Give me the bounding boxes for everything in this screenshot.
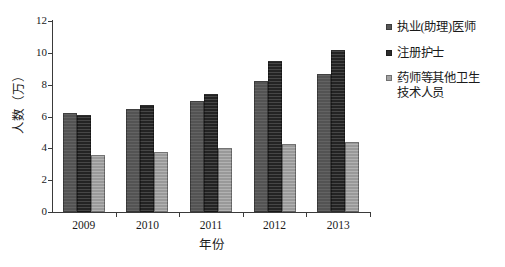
bar — [345, 142, 359, 212]
x-axis-title: 年份 — [52, 238, 371, 252]
x-tick-label: 2010 — [117, 219, 177, 232]
y-tick-label: 12 — [0, 15, 55, 26]
bar — [190, 101, 204, 212]
x-tick-label: 2012 — [245, 219, 305, 232]
bar — [63, 113, 77, 212]
y-tick-label: 8 — [0, 79, 55, 90]
legend-swatch-icon — [386, 50, 392, 56]
bar — [77, 115, 91, 212]
legend-label: 药师等其他卫生 技术人员 — [397, 71, 480, 100]
y-tick-label: 10 — [0, 47, 55, 58]
bar — [331, 50, 345, 212]
x-tick-mark — [243, 213, 244, 217]
bar — [317, 74, 331, 212]
y-tick-label: 2 — [0, 174, 55, 185]
bar — [282, 144, 296, 212]
bar-chart-figure: 024681012 20092010201120122013 人数（万） 年份 … — [0, 0, 505, 267]
legend-label: 执业(助理)医师 — [397, 20, 476, 35]
y-axis-title: 人数（万） — [13, 47, 26, 157]
y-tick-label: 0 — [0, 206, 55, 217]
legend-item[interactable]: 药师等其他卫生 技术人员 — [386, 71, 505, 100]
y-tick-label: 4 — [0, 142, 55, 153]
bar — [254, 81, 268, 212]
chart-legend: 执业(助理)医师注册护士药师等其他卫生 技术人员 — [386, 20, 505, 111]
x-tick-mark — [306, 213, 307, 217]
x-axis-line — [52, 212, 371, 213]
x-tick-mark — [179, 213, 180, 217]
y-tick-label: 6 — [0, 111, 55, 122]
legend-swatch-icon — [386, 24, 392, 30]
bar — [204, 94, 218, 212]
legend-item[interactable]: 注册护士 — [386, 46, 505, 61]
x-tick-mark — [370, 213, 371, 217]
bar — [218, 148, 232, 212]
bar — [126, 109, 140, 212]
x-tick-label: 2013 — [308, 219, 368, 232]
x-tick-mark — [116, 213, 117, 217]
legend-swatch-icon — [386, 75, 392, 81]
legend-label: 注册护士 — [397, 46, 444, 61]
x-tick-label: 2011 — [181, 219, 241, 232]
x-tick-label: 2009 — [54, 219, 114, 232]
bar — [268, 61, 282, 212]
bar — [154, 152, 168, 212]
bar — [91, 155, 105, 212]
legend-item[interactable]: 执业(助理)医师 — [386, 20, 505, 35]
bar — [140, 105, 154, 212]
plot-area — [52, 21, 370, 212]
